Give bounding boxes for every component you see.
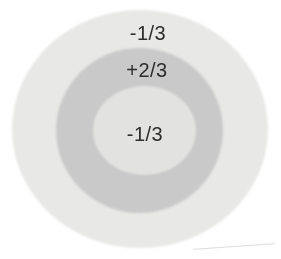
charge-distribution-diagram: -1/3 +2/3 -1/3: [0, 0, 281, 259]
scan-crease-artifact: [193, 243, 275, 250]
inner-core-charge-label: -1/3: [127, 123, 163, 146]
middle-shell-charge-label: +2/3: [126, 59, 167, 82]
outer-shell-charge-label: -1/3: [130, 22, 166, 45]
